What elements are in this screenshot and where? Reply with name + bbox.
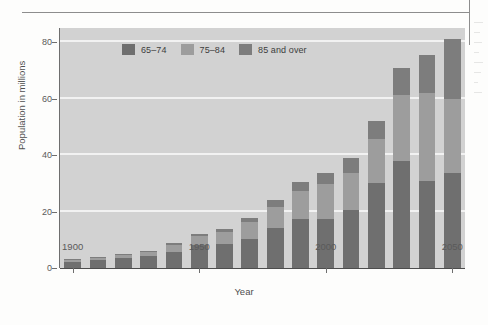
bar-segment-1920-65-74	[115, 258, 132, 268]
bar-segment-1960-75-84	[216, 232, 233, 243]
bar-segment-1980-75-84	[267, 207, 284, 228]
y-tick-label-20: 20	[0, 207, 60, 217]
bar-1980	[267, 200, 284, 268]
x-tick-mark	[326, 268, 327, 273]
bar-1930	[140, 251, 157, 268]
bar-segment-2040-65-74	[419, 181, 436, 268]
bar-segment-1980-85-and-over	[267, 200, 284, 207]
y-tick-label-80: 80	[0, 37, 60, 47]
y-tick-label-60: 60	[0, 94, 60, 104]
bar-segment-1910-65-74	[90, 260, 107, 268]
bar-segment-1930-65-74	[140, 256, 157, 268]
bar-1990	[292, 182, 309, 268]
bar-segment-2010-85-and-over	[343, 158, 360, 173]
bar-1900	[64, 259, 81, 268]
legend-label: 65–74	[141, 45, 167, 55]
bar-2020	[368, 121, 385, 268]
bar-segment-2020-85-and-over	[368, 121, 385, 139]
bar-segment-2000-85-and-over	[317, 173, 334, 185]
bar-segment-1980-65-74	[267, 228, 284, 268]
y-tick-mark	[52, 155, 57, 156]
bar-segment-1990-65-74	[292, 219, 309, 268]
y-tick-mark	[52, 99, 57, 100]
x-tick-label-1950: 1950	[189, 241, 210, 252]
bar-group	[60, 28, 465, 268]
x-tick-label-2050: 2050	[442, 241, 463, 252]
y-tick-mark	[52, 42, 57, 43]
x-tick-mark	[199, 268, 200, 273]
bar-segment-2030-85-and-over	[393, 68, 410, 95]
page-canvas: Population in millions Year 020406080 19…	[0, 0, 488, 325]
bar-segment-1960-65-74	[216, 244, 233, 268]
y-tick-mark	[52, 212, 57, 213]
bar-2040	[419, 55, 436, 268]
bar-segment-1990-85-and-over	[292, 182, 309, 191]
bar-segment-1970-65-74	[241, 239, 258, 268]
y-axis-title: Population in millions	[16, 61, 27, 150]
bar-segment-2020-65-74	[368, 183, 385, 268]
page-rule-vertical	[469, 0, 470, 45]
legend-swatch-icon	[181, 44, 194, 55]
x-tick-label-1900: 1900	[62, 241, 83, 252]
x-axis-line	[60, 268, 465, 269]
bar-2030	[393, 68, 410, 268]
bar-1910	[90, 257, 107, 268]
bar-segment-2000-75-84	[317, 184, 334, 219]
legend-swatch-icon	[122, 44, 135, 55]
page-bleed-through-marks	[474, 22, 488, 114]
bar-segment-2050-65-74	[444, 173, 461, 268]
x-tick-mark	[452, 268, 453, 273]
bar-segment-2030-75-84	[393, 95, 410, 161]
chart-legend: 65–7475–8485 and over	[122, 44, 307, 55]
bar-segment-1940-75-84	[166, 245, 183, 252]
bar-2010	[343, 158, 360, 268]
bar-segment-2040-75-84	[419, 93, 436, 181]
page-rule-horizontal	[22, 12, 470, 13]
bar-segment-2050-75-84	[444, 99, 461, 174]
bar-1970	[241, 218, 258, 268]
bar-segment-2020-75-84	[368, 139, 385, 184]
x-tick-mark	[73, 268, 74, 273]
bar-1940	[166, 243, 183, 268]
bar-2050	[444, 39, 461, 268]
y-tick-label-0: 0	[0, 263, 60, 273]
x-axis-title: Year	[0, 286, 488, 297]
bar-1960	[216, 229, 233, 268]
legend-item-85-and-over: 85 and over	[239, 44, 307, 55]
bar-segment-2010-75-84	[343, 173, 360, 210]
legend-item-75-84: 75–84	[181, 44, 226, 55]
bar-segment-1990-75-84	[292, 191, 309, 220]
bar-segment-2050-85-and-over	[444, 39, 461, 98]
bar-segment-1940-65-74	[166, 252, 183, 268]
legend-label: 75–84	[200, 45, 226, 55]
legend-label: 85 and over	[258, 45, 307, 55]
bar-segment-2030-65-74	[393, 161, 410, 268]
bar-segment-2010-65-74	[343, 210, 360, 268]
bar-segment-2040-85-and-over	[419, 55, 436, 93]
x-tick-label-2000: 2000	[315, 241, 336, 252]
legend-swatch-icon	[239, 44, 252, 55]
bar-2000	[317, 173, 334, 268]
bar-1920	[115, 254, 132, 268]
bar-segment-1970-75-84	[241, 222, 258, 239]
y-tick-label-40: 40	[0, 150, 60, 160]
legend-item-65-74: 65–74	[122, 44, 167, 55]
y-tick-mark	[52, 268, 57, 269]
stacked-bar-chart	[60, 28, 465, 268]
